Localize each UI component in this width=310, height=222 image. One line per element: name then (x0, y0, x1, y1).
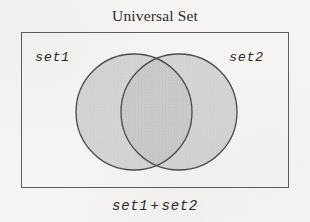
set2-label: set2 (229, 50, 264, 65)
page-title: Universal Set (0, 7, 310, 25)
caption-right-operand: set2 (162, 198, 198, 214)
caption-operator: + (148, 198, 161, 214)
set1-label: set1 (35, 50, 70, 65)
figure-caption: set1+set2 (0, 198, 310, 214)
caption-left-operand: set1 (112, 198, 148, 214)
venn-diagram-figure: Universal Set (0, 0, 310, 222)
